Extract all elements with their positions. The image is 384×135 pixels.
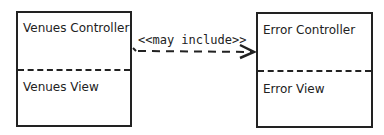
may-include-arrow [0,0,384,135]
relationship-label: <<may include>> [138,33,246,47]
